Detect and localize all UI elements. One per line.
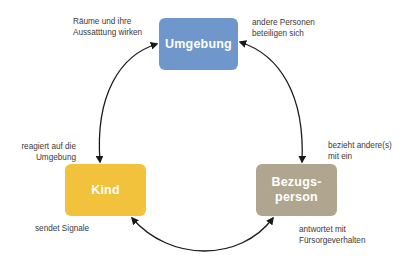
label-right: bezieht andere(s) mit ein [328, 141, 392, 162]
node-umgebung: Umgebung [159, 18, 238, 70]
arrow-umgebung-kind [99, 44, 157, 162]
arrow-kind-bezugsperson [132, 218, 273, 251]
label-left: reagiert auf die Umgebung [20, 142, 76, 163]
label-bottom-right: antwortet mit Fürsorgeverhalten [299, 225, 365, 246]
node-bezugsperson: Bezugs- person [256, 164, 337, 216]
label-bottom-left: sendet Signale [35, 224, 89, 235]
node-bezugsperson-label-1: Bezugs- [271, 175, 321, 190]
node-umgebung-label: Umgebung [165, 37, 232, 52]
label-top-right: andere Personen beteiligen sich [252, 18, 315, 39]
label-top-left: Räume und ihre Aussatttung wirken [73, 17, 142, 38]
node-bezugsperson-label-2: person [275, 190, 318, 205]
arrow-umgebung-bezugsperson [240, 42, 302, 162]
node-kind-label: Kind [91, 183, 120, 198]
node-kind: Kind [65, 164, 146, 216]
